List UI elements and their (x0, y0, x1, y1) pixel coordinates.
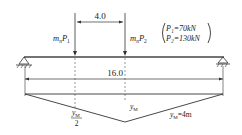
ym-label: yM (129, 102, 138, 112)
load-arrow-2 (123, 13, 127, 56)
svg-text:2: 2 (75, 119, 79, 128)
spacing-label: 4.0 (94, 11, 106, 21)
ym-value-label: yM=4m (169, 110, 192, 120)
influence-line (25, 94, 223, 122)
left-support-icon (16, 57, 32, 68)
span-dimension (25, 66, 223, 96)
load-label-1: mnP1 (53, 33, 70, 44)
load-arrow-1 (73, 13, 77, 56)
span-label: 16.0 (107, 68, 123, 78)
load-values-legend: P₁=70kN P₂=130kN (163, 23, 211, 43)
half-ym-label: yM 2 (71, 108, 82, 128)
p2-value: P₂=130kN (165, 34, 201, 43)
p1-value: P₁=70kN (165, 24, 197, 33)
load-label-2: mnP2 (130, 33, 147, 44)
right-support-icon (216, 57, 230, 67)
beam-diagram: 4.0 mnP1 mnP2 P₁=70kN P₂=130kN 16.0 yM y… (0, 0, 242, 135)
